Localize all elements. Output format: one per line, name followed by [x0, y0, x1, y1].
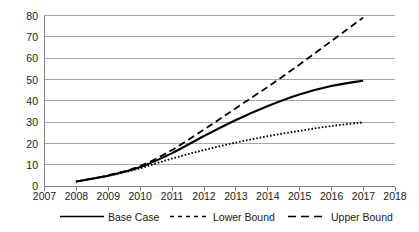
legend-label-upper-bound: Upper Bound [331, 211, 393, 223]
x-tick-label-2007: 2007 [33, 190, 57, 202]
x-tick-label-2012: 2012 [192, 190, 216, 202]
x-tick-label-2009: 2009 [97, 190, 121, 202]
x-tick-label-2018: 2018 [383, 190, 407, 202]
series-line-base-case [76, 81, 363, 182]
legend: Base Case Lower Bound Upper Bound [60, 211, 393, 223]
x-tick-label-2015: 2015 [288, 190, 312, 202]
x-tick-label-2016: 2016 [320, 190, 344, 202]
x-tick-label-2008: 2008 [65, 190, 89, 202]
y-tick-label-80: 80 [26, 10, 38, 22]
x-tick-label-2014: 2014 [256, 190, 280, 202]
x-tick-label-2010: 2010 [129, 190, 153, 202]
x-tick-labels: 2007 2008 2009 2010 2011 2012 2013 2014 … [33, 190, 407, 202]
y-tick-label-10: 10 [26, 159, 38, 171]
y-tick-labels: 80 70 60 50 40 30 20 10 0 [26, 10, 38, 193]
series-line-upper-bound [76, 18, 363, 182]
series-group [76, 18, 363, 182]
y-tick-label-60: 60 [26, 52, 38, 64]
x-tick-label-2011: 2011 [161, 190, 184, 202]
line-chart: 80 70 60 50 40 30 20 10 0 2007 2008 2009… [0, 0, 419, 232]
gridlines [44, 16, 395, 165]
x-tick-label-2017: 2017 [352, 190, 376, 202]
y-tick-label-40: 40 [26, 95, 38, 107]
y-tick-label-30: 30 [26, 116, 38, 128]
x-tick-label-2013: 2013 [224, 190, 248, 202]
y-tick-label-70: 70 [26, 31, 38, 43]
y-tick-label-20: 20 [26, 138, 38, 150]
legend-label-lower-bound: Lower Bound [213, 211, 275, 223]
legend-label-base-case: Base Case [108, 211, 160, 223]
y-tick-label-50: 50 [26, 74, 38, 86]
chart-canvas: 80 70 60 50 40 30 20 10 0 2007 2008 2009… [0, 0, 419, 232]
